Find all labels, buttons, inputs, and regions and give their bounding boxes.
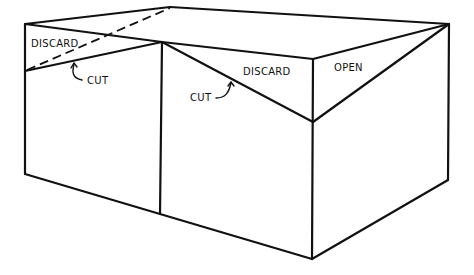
bottom-left-edge [25,174,312,259]
top-back-edge-right [170,7,449,24]
cut-line-right [313,24,449,122]
right-edge [448,24,449,180]
front-corner-edge [312,59,313,259]
box-diagram: DISCARD CUT DISCARD CUT OPEN [0,0,474,275]
middle-post [160,42,162,214]
open-label: OPEN [334,63,363,73]
top-right-edge [313,24,449,59]
cut-label-left: CUT [87,76,108,86]
top-back-edge-left [25,7,170,24]
discard-label-left: DISCARD [31,39,79,49]
top-front-edge-right [162,42,313,59]
bottom-right-edge [312,180,448,259]
cut-arrow-left [73,64,82,80]
discard-label-right: DISCARD [243,67,291,77]
cut-label-right: CUT [190,93,211,103]
cut-line-front [162,42,313,122]
